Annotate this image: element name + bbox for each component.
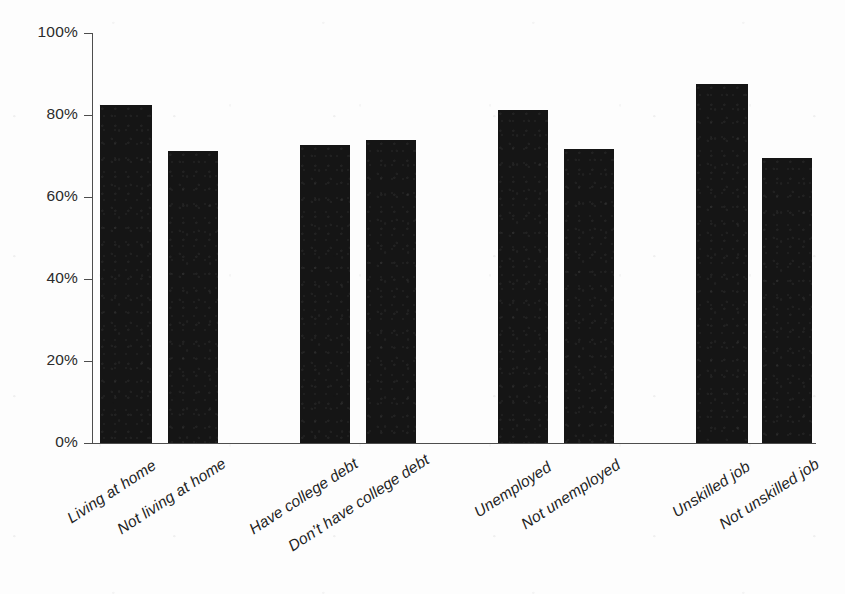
bar	[300, 145, 350, 443]
bar	[696, 84, 748, 443]
y-tick-label: 0%	[0, 433, 78, 451]
bar	[168, 151, 218, 443]
y-tick-mark	[84, 33, 93, 34]
bar	[762, 158, 812, 443]
y-tick-mark	[84, 197, 93, 198]
y-tick-label: 20%	[0, 351, 78, 369]
y-tick-mark	[84, 279, 93, 280]
bar-chart: 100%80%60%40%20%0% Living at homeNot liv…	[0, 0, 845, 594]
y-tick-mark	[84, 115, 93, 116]
y-tick-label: 60%	[0, 187, 78, 205]
x-axis-label: Have college debt	[246, 454, 361, 538]
y-tick-label: 100%	[0, 23, 78, 41]
y-tick-label: 40%	[0, 269, 78, 287]
y-tick-label: 80%	[0, 105, 78, 123]
y-tick-mark	[84, 443, 93, 444]
y-tick-mark	[84, 361, 93, 362]
bar	[100, 105, 152, 443]
bar	[498, 110, 548, 443]
y-axis-line	[92, 33, 93, 444]
x-axis-line	[92, 443, 816, 444]
bar	[366, 140, 416, 443]
bar	[564, 149, 614, 443]
